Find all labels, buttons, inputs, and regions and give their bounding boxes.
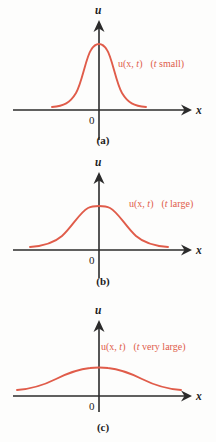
panel-a-curve-label-func: u(x [118,58,131,70]
panel-a-y-axis-label: u [95,4,102,16]
panel-a: u x 0 u(x, t)(t small) (a) [13,4,202,147]
panel-c-curve-label-func: u(x [101,341,114,353]
panel-a-curve-label: u(x, t)(t small) [118,58,184,70]
panel-b: u x 0 u(x, t)(t large) (b) [13,156,202,288]
panel-c-condition-text: very large) [140,341,186,353]
panel-a-x-axis-label: x [195,104,202,116]
panel-c-origin-label: 0 [89,400,95,412]
panel-b-caption: (b) [96,275,110,288]
panel-b-curve-label: u(x, t)(t large) [129,198,193,210]
panel-c-curve-label-close: ) [122,341,125,353]
panel-c-caption: (c) [97,421,110,434]
panel-c-y-axis-label: u [95,304,102,316]
panel-c-x-axis-label: x [195,390,202,402]
heat-equation-figure: u x 0 u(x, t)(t small) (a) u x 0 [0,0,216,442]
panel-a-curve-label-close: ) [139,58,142,70]
panel-b-origin-label: 0 [89,254,95,266]
panel-b-x-axis-label: x [195,244,202,256]
panel-a-caption: (a) [97,134,110,147]
panel-b-y-axis-label: u [95,156,102,168]
panel-b-condition-text: large) [168,198,194,210]
panel-c: u x 0 u(x, t)(t very large) (c) [13,304,202,434]
panel-b-curve-label-close: ) [150,198,153,210]
panel-c-curve-label: u(x, t)(t very large) [101,341,186,353]
panel-a-origin-label: 0 [89,114,95,126]
panel-a-condition-text: small) [157,58,185,70]
panel-b-curve-label-func: u(x [129,198,142,210]
